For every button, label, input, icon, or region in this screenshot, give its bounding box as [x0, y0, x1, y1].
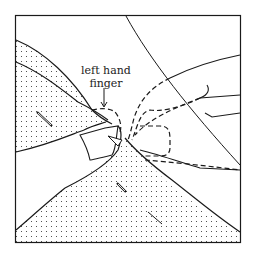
fabric-lower [16, 138, 240, 242]
thumbnail [80, 126, 118, 160]
annotation-label: left hand finger [78, 64, 134, 90]
annotation-line1: left hand [78, 64, 134, 77]
illustration-drawing [0, 0, 255, 255]
sewing-illustration: left hand finger [0, 0, 255, 255]
annotation-line2: finger [78, 77, 134, 90]
